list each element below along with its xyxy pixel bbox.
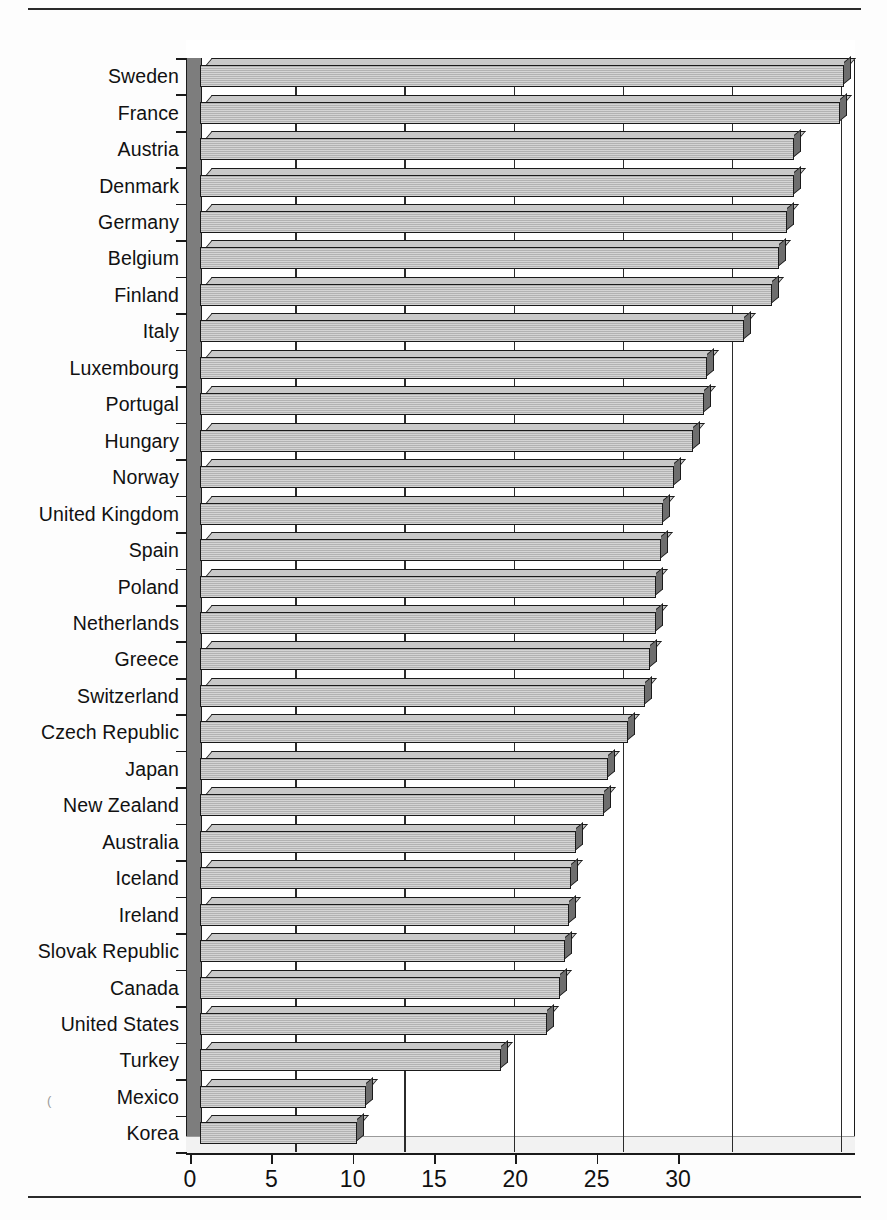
bar-top-face [206, 240, 790, 247]
category-label-korea: Korea [126, 1122, 179, 1145]
x-axis-tick-30 [678, 1153, 680, 1164]
y-axis-tick [176, 350, 187, 352]
bar-greece [200, 648, 650, 670]
bar-side-face [565, 931, 572, 959]
bar-top-face [206, 131, 806, 138]
category-label-austria: Austria [118, 138, 179, 161]
bar-row: Canada [0, 969, 887, 1005]
category-label-mexico: Mexico [117, 1085, 179, 1108]
category-label-italy: Italy [143, 320, 179, 343]
bar-side-face [569, 895, 576, 923]
bar-side-face [366, 1077, 373, 1105]
bar-side-face [661, 530, 668, 558]
bar-side-face [650, 640, 657, 668]
y-axis-tick [176, 678, 187, 680]
bar-top-face [206, 605, 668, 612]
bar-row: Slovak Republic [0, 933, 887, 969]
x-axis-label-0: 0 [184, 1166, 197, 1193]
bar-side-face [604, 785, 611, 813]
page-rule-top [28, 8, 861, 10]
bar-japan [200, 758, 608, 780]
y-axis-tick [176, 240, 187, 242]
bar-row: United States [0, 1006, 887, 1042]
bar-row: Denmark [0, 167, 887, 203]
bar-front-face [200, 794, 604, 816]
bar-side-face [357, 1113, 364, 1141]
bar-czech-republic [200, 721, 628, 743]
category-label-denmark: Denmark [99, 174, 179, 197]
bar-top-face [206, 95, 852, 102]
bar-row: Korea [0, 1115, 887, 1151]
bar-top-face [206, 970, 572, 977]
bar-row: Ireland [0, 896, 887, 932]
bar-top-face [206, 204, 799, 211]
bar-side-face [674, 457, 681, 485]
bar-top-face [206, 933, 576, 940]
bar-side-face [779, 239, 786, 267]
bar-front-face [200, 758, 608, 780]
bar-front-face [200, 1122, 357, 1144]
bar-front-face [200, 102, 840, 124]
bar-norway [200, 466, 674, 488]
bar-front-face [200, 940, 565, 962]
bar-side-face [704, 384, 711, 412]
category-label-belgium: Belgium [108, 247, 179, 270]
y-axis-tick [176, 94, 187, 96]
bar-italy [200, 320, 744, 342]
bar-side-face [560, 968, 567, 996]
bar-row: Czech Republic [0, 714, 887, 750]
bar-germany [200, 211, 787, 233]
y-axis-tick [176, 204, 187, 206]
category-label-greece: Greece [114, 648, 179, 671]
bar-top-face [206, 168, 806, 175]
bar-side-face [693, 421, 700, 449]
y-axis-tick [176, 860, 187, 862]
bar-row: Norway [0, 459, 887, 495]
bar-front-face [200, 867, 571, 889]
bar-top-face [206, 313, 756, 320]
x-axis-line [186, 1153, 855, 1155]
category-label-germany: Germany [98, 211, 179, 234]
x-axis-label-30: 30 [665, 1166, 691, 1193]
category-label-france: France [118, 101, 179, 124]
bar-row: Hungary [0, 423, 887, 459]
bar-top-face [206, 459, 686, 466]
bar-row: Portugal [0, 386, 887, 422]
bar-row: Turkey [0, 1042, 887, 1078]
category-label-netherlands: Netherlands [73, 612, 179, 635]
bar-side-face [571, 858, 578, 886]
bar-side-face [501, 1041, 508, 1069]
y-axis-tick [176, 1116, 187, 1118]
y-axis-tick [176, 714, 187, 716]
bar-front-face [200, 539, 661, 561]
plot-top-ledge [186, 40, 855, 58]
x-axis-tick-15 [434, 1153, 436, 1164]
bar-front-face [200, 138, 794, 160]
category-label-japan: Japan [125, 757, 179, 780]
bar-top-face [206, 277, 784, 284]
y-axis-tick [176, 423, 187, 425]
x-axis-label-20: 20 [503, 1166, 529, 1193]
y-axis-tick [176, 131, 187, 133]
bar-side-face [663, 494, 670, 522]
bar-denmark [200, 175, 794, 197]
category-label-united-kingdom: United Kingdom [39, 502, 179, 525]
bar-new-zealand [200, 794, 604, 816]
bar-side-face [608, 749, 615, 777]
bar-row: Spain [0, 532, 887, 568]
bar-row: Iceland [0, 860, 887, 896]
bar-front-face [200, 247, 779, 269]
bar-france [200, 102, 840, 124]
bar-poland [200, 576, 656, 598]
category-label-poland: Poland [118, 575, 179, 598]
bar-top-face [206, 1079, 378, 1086]
x-axis-label-25: 25 [584, 1166, 610, 1193]
bar-row: Finland [0, 277, 887, 313]
bar-front-face [200, 612, 656, 634]
bar-side-face [840, 93, 847, 121]
bar-top-face [206, 569, 668, 576]
bar-top-face [206, 641, 662, 648]
category-label-iceland: Iceland [115, 867, 179, 890]
bar-row: Austria [0, 131, 887, 167]
bar-turkey [200, 1049, 501, 1071]
